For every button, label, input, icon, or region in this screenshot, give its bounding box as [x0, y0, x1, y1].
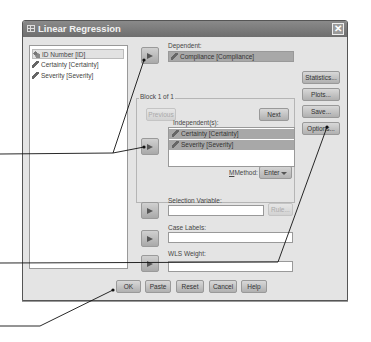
scale-variable-icon — [172, 141, 179, 148]
case-labels-label: Case Labels: — [168, 224, 206, 231]
dependent-value: Compliance [Compliance] — [180, 53, 254, 60]
list-item-label: Severity [Severity] — [41, 72, 93, 79]
list-item[interactable]: ID Number [ID] — [32, 49, 124, 59]
move-to-case-labels-button[interactable] — [141, 230, 159, 247]
arrow-right-icon — [147, 144, 153, 150]
list-item[interactable]: Severity [Severity] — [169, 140, 294, 150]
cancel-button[interactable]: Cancel — [209, 280, 237, 293]
arrow-right-icon — [147, 208, 153, 214]
title-bar[interactable]: Linear Regression ✕ — [23, 21, 347, 37]
method-select[interactable]: Enter — [259, 166, 292, 179]
move-to-wls-weight-button[interactable] — [141, 255, 159, 272]
list-item-label: Certainty [Certainty] — [41, 61, 98, 68]
list-item-label: Certainty [Certainty] — [181, 130, 238, 137]
method-label: MMethod: — [229, 169, 258, 176]
move-to-selection-variable-button[interactable] — [141, 202, 159, 219]
independents-list[interactable]: Certainty [Certainty] Severity [Severity… — [168, 127, 295, 167]
wls-weight-field[interactable] — [168, 261, 293, 272]
case-labels-field[interactable] — [168, 232, 293, 243]
list-item[interactable]: Severity [Severity] — [32, 71, 93, 81]
linear-regression-dialog: Linear Regression ✕ ID Number [ID] Certa… — [22, 20, 348, 301]
scale-variable-icon — [172, 130, 179, 137]
list-item[interactable]: Certainty [Certainty] — [169, 129, 294, 139]
ok-button[interactable]: OK — [116, 280, 141, 293]
scale-variable-icon — [32, 61, 39, 68]
save-button[interactable]: Save... — [302, 105, 340, 118]
move-to-independents-button[interactable] — [141, 138, 159, 155]
selection-variable-field[interactable] — [168, 205, 264, 216]
arrow-right-icon — [147, 53, 153, 59]
list-item[interactable]: Certainty [Certainty] — [32, 60, 98, 70]
block-title: Block 1 of 1 — [139, 93, 175, 100]
dialog-title: Linear Regression — [38, 23, 121, 34]
source-variable-list[interactable]: ID Number [ID] Certainty [Certainty] Sev… — [29, 45, 128, 269]
reset-button[interactable]: Reset — [176, 280, 204, 293]
chevron-down-icon — [281, 172, 287, 175]
scale-variable-icon — [32, 72, 39, 79]
rule-button[interactable]: Rule... — [268, 203, 293, 216]
dependent-label: Dependent: — [168, 42, 202, 49]
list-item-label: ID Number [ID] — [42, 51, 85, 58]
help-button[interactable]: Help — [241, 280, 267, 293]
close-icon[interactable]: ✕ — [332, 23, 344, 35]
selection-variable-label: Selection Variable: — [168, 197, 222, 204]
dependent-field[interactable]: Compliance [Compliance] — [168, 51, 294, 62]
plots-button[interactable]: Plots... — [302, 88, 340, 101]
previous-button[interactable]: Previous — [146, 108, 176, 121]
grid-icon — [27, 25, 35, 32]
arrow-right-icon — [147, 236, 153, 242]
arrow-right-icon — [147, 261, 153, 267]
paste-button[interactable]: Paste — [145, 280, 171, 293]
nominal-variable-icon — [33, 51, 40, 58]
statistics-button[interactable]: Statistics... — [302, 71, 340, 84]
scale-variable-icon — [171, 53, 178, 60]
next-button[interactable]: Next — [259, 108, 289, 121]
options-button[interactable]: Options... — [302, 122, 340, 135]
independents-label: Independent(s): — [173, 119, 219, 126]
method-value: Enter — [264, 169, 280, 176]
list-item-label: Severity [Severity] — [181, 141, 233, 148]
move-to-dependent-button[interactable] — [141, 47, 159, 64]
wls-weight-label: WLS Weight: — [168, 250, 206, 257]
